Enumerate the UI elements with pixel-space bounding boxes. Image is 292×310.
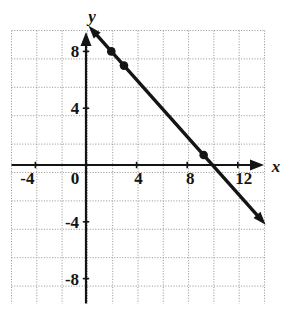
data-point [120, 61, 129, 70]
data-point [107, 47, 116, 56]
y-tick-label-8: 8 [71, 42, 80, 61]
figure-background [0, 0, 292, 310]
y-axis-label: y [86, 7, 96, 26]
coordinate-plane-svg: -40481284-4-8 x y [0, 0, 292, 310]
x-tick-label-0: 0 [71, 169, 80, 188]
y-tick-label-4: 4 [71, 99, 80, 118]
x-axis-label: x [271, 157, 281, 176]
y-tick-label-neg4: -4 [65, 213, 80, 232]
x-tick-label-8: 8 [186, 169, 195, 188]
graph-figure: -40481284-4-8 x y [0, 0, 292, 310]
x-tick-label-neg4: -4 [20, 169, 35, 188]
x-tick-label-4: 4 [134, 169, 143, 188]
x-tick-label-12: 12 [235, 169, 252, 188]
data-point [199, 151, 208, 160]
y-tick-label-neg8: -8 [65, 270, 79, 289]
